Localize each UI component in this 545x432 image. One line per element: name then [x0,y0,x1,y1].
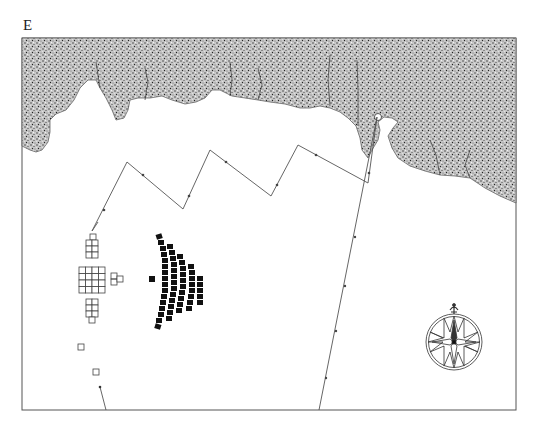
fleet-track-zigzag [92,117,377,231]
fleet-a-formation [78,234,123,375]
short-track [100,387,106,410]
lead-arrow [92,222,98,231]
fleet-b-formation [149,233,203,330]
short-track-arrow [99,386,102,389]
harbor-marker [375,114,382,121]
compass-rose-icon [426,304,482,371]
battle-map [0,0,545,432]
